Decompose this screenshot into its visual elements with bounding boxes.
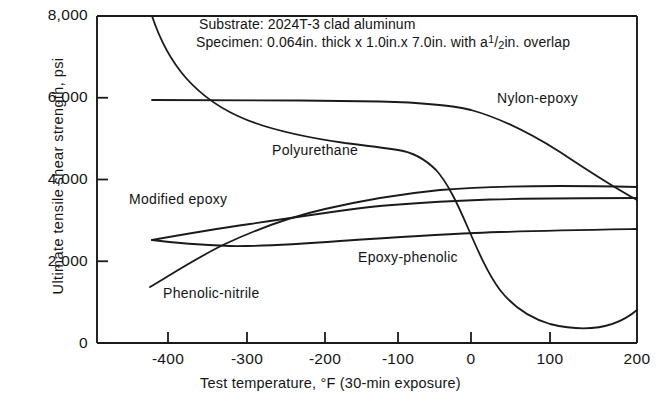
curve-polyurethane xyxy=(152,16,637,328)
y-tick-marks xyxy=(97,98,108,262)
x-tick-label-m300: -300 xyxy=(212,350,282,368)
x-tick-label-0: 0 xyxy=(436,350,506,368)
curve-label-nylon-epoxy: Nylon-epoxy xyxy=(497,90,578,106)
y-tick-label-4000: 4,000 xyxy=(8,170,88,188)
x-tick-marks xyxy=(168,332,550,343)
x-tick-label-m200: -200 xyxy=(290,350,360,368)
y-tick-label-2000: 2,000 xyxy=(8,252,88,270)
chart-figure: Ultimate tensile shear strength, psi 8,0… xyxy=(0,0,661,407)
x-axis-title: Test temperature, °F (30-min exposure) xyxy=(0,375,661,391)
annotation-specimen-prefix: Specimen: 0.064in. thick x 1.0in.x 7.0in… xyxy=(196,34,488,50)
plot-canvas xyxy=(0,0,661,407)
y-tick-label-6000: 6,000 xyxy=(8,88,88,106)
annotation-specimen: Specimen: 0.064in. thick x 1.0in.x 7.0in… xyxy=(196,34,570,50)
curve-label-modified-epoxy: Modified epoxy xyxy=(129,191,227,207)
fraction-denominator: 2 xyxy=(498,39,504,51)
x-tick-label-100: 100 xyxy=(515,350,585,368)
annotation-specimen-suffix: in. overlap xyxy=(504,34,570,50)
fraction-one-half: 1/2 xyxy=(488,35,504,49)
x-tick-label-m400: -400 xyxy=(133,350,203,368)
curve-label-polyurethane: Polyurethane xyxy=(272,142,358,158)
curve-label-epoxy-phenolic: Epoxy-phenolic xyxy=(358,249,458,265)
annotation-substrate: Substrate: 2024T-3 clad aluminum xyxy=(199,16,415,32)
x-tick-label-200: 200 xyxy=(602,350,661,368)
y-tick-label-8000: 8,000 xyxy=(8,6,88,24)
curve-label-phenolic-nitrile: Phenolic-nitrile xyxy=(163,285,260,301)
x-tick-label-m100: -100 xyxy=(363,350,433,368)
y-tick-label-0: 0 xyxy=(8,334,88,352)
